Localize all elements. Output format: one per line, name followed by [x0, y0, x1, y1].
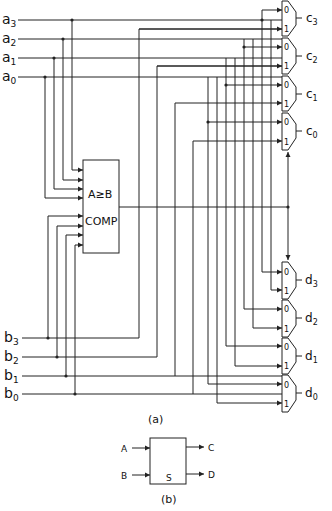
comparator-block: A≥B COMP [83, 160, 119, 253]
svg-text:1: 1 [284, 362, 289, 371]
svg-text:0: 0 [284, 81, 289, 90]
label-d3: d3 [305, 273, 318, 289]
select-line [119, 152, 290, 260]
label-a3: a3 [2, 11, 16, 29]
svg-text:1: 1 [284, 25, 289, 34]
caption-b: (b) [161, 493, 177, 506]
c-mux-column: 0 1 c3 0 1 c2 0 1 c1 0 1 c0 [282, 1, 318, 150]
sorter-circuit-diagram: a3 a2 a1 a0 A≥B COMP [0, 0, 332, 511]
label-a1: a1 [2, 49, 16, 67]
label-c0: c0 [306, 124, 318, 140]
label-b3: b3 [4, 329, 19, 347]
svg-text:1: 1 [284, 325, 289, 334]
label-c2: c2 [306, 49, 318, 65]
svg-text:1: 1 [284, 62, 289, 71]
input-a-labels: a3 a2 a1 a0 [2, 11, 17, 86]
b-to-comparator-wires [46, 216, 83, 396]
output-c-label: C [208, 443, 214, 453]
svg-text:0: 0 [284, 343, 289, 352]
svg-text:0: 0 [284, 6, 289, 15]
comparator-name-label: COMP [85, 215, 118, 228]
label-a2: a2 [2, 30, 16, 48]
svg-text:0: 0 [284, 118, 289, 127]
mux-c2: 0 1 c2 [282, 38, 318, 74]
comparator-condition-label: A≥B [88, 188, 112, 201]
sorter-block-symbol: A B C D S [121, 438, 215, 484]
b-bus-wires [22, 29, 282, 394]
output-d-label: D [208, 470, 215, 480]
label-c1: c1 [306, 87, 318, 103]
mux-c1: 0 1 c1 [282, 76, 318, 111]
svg-text:0: 0 [284, 381, 289, 390]
label-b1: b1 [4, 367, 19, 385]
label-a0: a0 [2, 68, 17, 86]
input-b-label: B [121, 471, 127, 481]
block-label-s: S [166, 473, 172, 483]
svg-text:1: 1 [284, 400, 289, 409]
label-c3: c3 [306, 11, 318, 27]
svg-text:1: 1 [284, 287, 289, 296]
label-b0: b0 [4, 385, 19, 403]
svg-text:0: 0 [284, 43, 289, 52]
caption-a: (a) [148, 413, 163, 426]
mux-c3: 0 1 c3 [282, 1, 318, 36]
svg-text:0: 0 [284, 268, 289, 277]
input-a-label: A [121, 444, 128, 454]
label-d1: d1 [305, 349, 318, 365]
mux-d2: 0 1 d2 [282, 300, 318, 337]
mux-c0: 0 1 c0 [282, 113, 318, 150]
svg-text:1: 1 [284, 138, 289, 147]
mux-d0: 0 1 d0 [282, 375, 318, 412]
mux-d3: 0 1 d3 [282, 262, 318, 299]
svg-text:0: 0 [284, 305, 289, 314]
mux-d1: 0 1 d1 [282, 338, 318, 374]
d-mux-column: 0 1 d3 0 1 d2 0 1 d1 0 1 d0 [282, 262, 318, 412]
label-b2: b2 [4, 348, 19, 366]
input-b-labels: b3 b2 b1 b0 [4, 329, 19, 403]
svg-text:1: 1 [284, 100, 289, 109]
a-to-comparator-wires [43, 18, 83, 198]
label-d0: d0 [305, 386, 318, 402]
label-d2: d2 [305, 311, 318, 327]
